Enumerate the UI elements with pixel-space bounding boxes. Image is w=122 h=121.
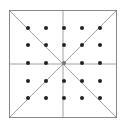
grid-dot — [26, 61, 30, 65]
grid-dot — [62, 43, 66, 47]
grid-dot — [26, 43, 30, 47]
grid-dot — [80, 96, 84, 100]
grid-dot — [44, 61, 48, 65]
grid-dot — [98, 26, 102, 30]
grid-dot — [98, 79, 102, 83]
grid-dot — [26, 79, 30, 83]
grid-dot — [44, 96, 48, 100]
grid-dot — [26, 96, 30, 100]
grid-dot — [44, 26, 48, 30]
grid-dot — [80, 79, 84, 83]
grid-dot — [62, 96, 66, 100]
grid-dot — [44, 43, 48, 47]
grid-dot — [26, 26, 30, 30]
grid-dot — [98, 61, 102, 65]
grid-dot — [80, 26, 84, 30]
grid-dot — [62, 61, 66, 65]
grid-dot — [98, 43, 102, 47]
grid-dot — [98, 96, 102, 100]
symmetry-diagram — [0, 0, 122, 121]
grid-dot — [44, 79, 48, 83]
grid-dot — [80, 43, 84, 47]
grid-dot — [62, 79, 66, 83]
grid-dot — [80, 61, 84, 65]
grid-dot — [62, 26, 66, 30]
